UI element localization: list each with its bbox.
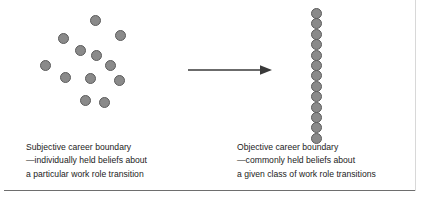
column-dot [311, 29, 322, 40]
caption-subjective-career-boundary: Subjective career boundary —individually… [26, 141, 147, 181]
bottom-divider [4, 190, 416, 191]
right-divider [415, 0, 416, 191]
column-dot [311, 112, 322, 123]
column-dot [311, 60, 322, 71]
caption-objective-line-3: a given class of work role transitions [237, 168, 376, 181]
column-dot [311, 102, 322, 113]
column-dot [311, 39, 322, 50]
caption-objective-line-2: —commonly held beliefs about [237, 154, 376, 167]
career-boundary-diagram: Subjective career boundary —individually… [0, 0, 425, 204]
transition-arrow-icon [188, 63, 272, 77]
caption-subjective-line-3: a particular work role transition [26, 168, 147, 181]
column-dot [311, 122, 322, 133]
column-dot [311, 70, 322, 81]
column-dot [311, 81, 322, 92]
caption-subjective-line-1: Subjective career boundary [26, 141, 147, 154]
column-dot [311, 50, 322, 61]
caption-subjective-line-2: —individually held beliefs about [26, 154, 147, 167]
caption-objective-line-1: Objective career boundary [237, 141, 376, 154]
column-dot [311, 18, 322, 29]
column-dot [311, 8, 322, 19]
column-dot [311, 91, 322, 102]
caption-objective-career-boundary: Objective career boundary —commonly held… [237, 141, 376, 181]
